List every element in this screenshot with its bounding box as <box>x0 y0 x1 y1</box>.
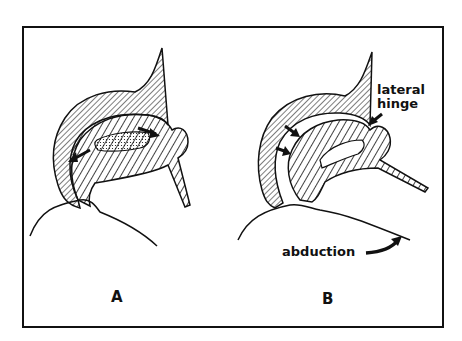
diagram-canvas <box>0 0 462 341</box>
lateral-hinge-label: lateral hinge <box>377 83 425 111</box>
lateral-hinge-line2: hinge <box>377 97 425 111</box>
lateral-hinge-line1: lateral <box>377 83 425 97</box>
abduction-label: abduction <box>282 244 355 259</box>
panel-a-label: A <box>111 288 123 306</box>
panel-b-label: B <box>322 290 333 308</box>
panel-a-drawing <box>30 48 190 246</box>
